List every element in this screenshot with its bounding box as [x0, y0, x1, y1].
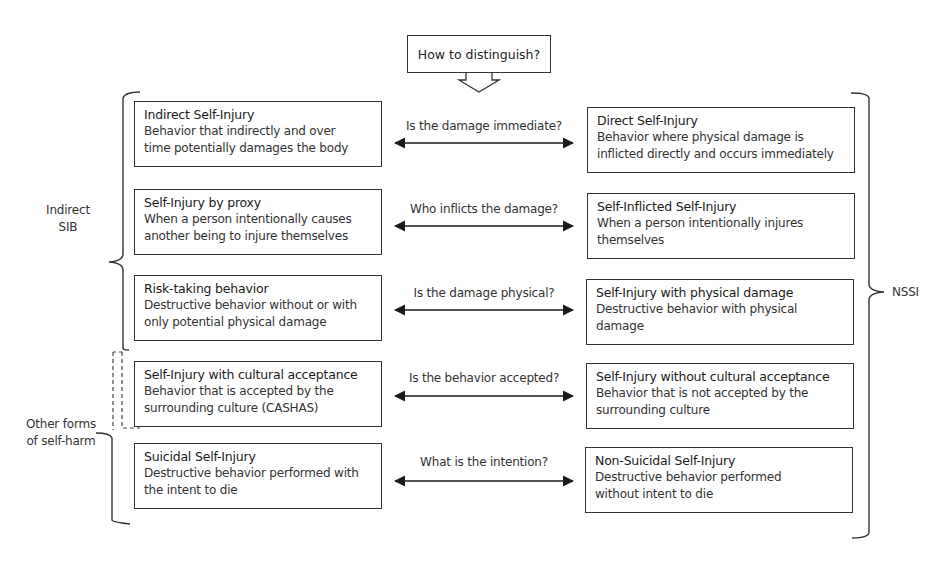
box-title: Self-Injury without cultural acceptance: [596, 368, 845, 385]
box-desc-line-1: Behavior that is accepted by the: [144, 383, 373, 400]
suicidal-self-injury-box: Suicidal Self-Injury Destructive behavio…: [134, 443, 382, 509]
direct-self-injury-box: Direct Self-Injury Behavior where physic…: [587, 107, 855, 173]
box-desc-line-1: Behavior that is not accepted by the: [596, 385, 845, 402]
box-title: Non-Suicidal Self-Injury: [595, 452, 844, 469]
self-injury-physical-damage-box: Self-Injury with physical damage Destruc…: [586, 279, 854, 345]
question-intention: What is the intention?: [384, 455, 584, 469]
box-desc-line-1: When a person intentionally injures: [597, 215, 846, 232]
self-injury-by-proxy-box: Self-Injury by proxy When a person inten…: [134, 189, 382, 255]
box-desc-line-2: damage: [596, 318, 845, 335]
box-desc-line-1: Destructive behavior with physical: [596, 301, 845, 318]
box-desc-line-1: Behavior that indirectly and over: [144, 123, 373, 140]
box-desc-line-1: Behavior where physical damage is: [597, 129, 846, 146]
how-to-distinguish-box: How to distinguish?: [407, 35, 551, 73]
other-forms-line-2: of self-harm: [20, 433, 102, 450]
box-desc-line-2: without intent to die: [595, 486, 844, 503]
risk-taking-behavior-box: Risk-taking behavior Destructive behavio…: [134, 275, 382, 341]
indirect-sib-line-2: SIB: [30, 219, 106, 236]
self-injury-without-cultural-acceptance-box: Self-Injury without cultural acceptance …: [586, 363, 854, 429]
box-desc-line-2: surrounding culture (CASHAS): [144, 400, 373, 417]
box-desc-line-2: inflicted directly and occurs immediatel…: [597, 146, 846, 163]
box-title: Self-Injury by proxy: [144, 194, 373, 211]
other-forms-label: Other forms of self-harm: [20, 416, 102, 450]
indirect-sib-line-1: Indirect: [30, 202, 106, 219]
box-desc-line-1: Destructive behavior performed with: [144, 465, 373, 482]
box-desc-line-2: themselves: [597, 232, 846, 249]
box-desc-line-2: the intent to die: [144, 482, 373, 499]
box-title: Suicidal Self-Injury: [144, 448, 373, 465]
question-behavior-accepted: Is the behavior accepted?: [384, 371, 584, 385]
indirect-self-injury-box: Indirect Self-Injury Behavior that indir…: [134, 101, 382, 167]
box-title: Self-Inflicted Self-Injury: [597, 198, 846, 215]
question-who-inflicts: Who inflicts the damage?: [384, 202, 584, 216]
self-injury-cultural-acceptance-box: Self-Injury with cultural acceptance Beh…: [134, 361, 382, 427]
other-forms-line-1: Other forms: [20, 416, 102, 433]
box-desc-line-1: Destructive behavior performed: [595, 469, 844, 486]
box-title: Self-Injury with cultural acceptance: [144, 366, 373, 383]
box-desc-line-2: time potentially damages the body: [144, 140, 373, 157]
nssi-bracket: [851, 93, 884, 538]
non-suicidal-self-injury-box: Non-Suicidal Self-Injury Destructive beh…: [585, 447, 853, 513]
box-desc-line-2: surrounding culture: [596, 402, 845, 419]
question-damage-physical: Is the damage physical?: [384, 286, 584, 300]
nssi-label: NSSI: [892, 284, 932, 301]
box-desc-line-1: When a person intentionally causes: [144, 211, 373, 228]
box-desc-line-1: Destructive behavior without or with: [144, 297, 373, 314]
box-title: Indirect Self-Injury: [144, 106, 373, 123]
how-to-distinguish-label: How to distinguish?: [418, 47, 540, 62]
box-desc-line-2: only potential physical damage: [144, 314, 373, 331]
box-title: Risk-taking behavior: [144, 280, 373, 297]
box-title: Direct Self-Injury: [597, 112, 846, 129]
question-damage-immediate: Is the damage immediate?: [384, 119, 584, 133]
box-desc-line-2: another being to injure themselves: [144, 228, 373, 245]
box-title: Self-Injury with physical damage: [596, 284, 845, 301]
indirect-sib-label: Indirect SIB: [30, 202, 106, 236]
down-arrow-icon: [459, 73, 499, 92]
self-inflicted-self-injury-box: Self-Inflicted Self-Injury When a person…: [587, 193, 855, 259]
